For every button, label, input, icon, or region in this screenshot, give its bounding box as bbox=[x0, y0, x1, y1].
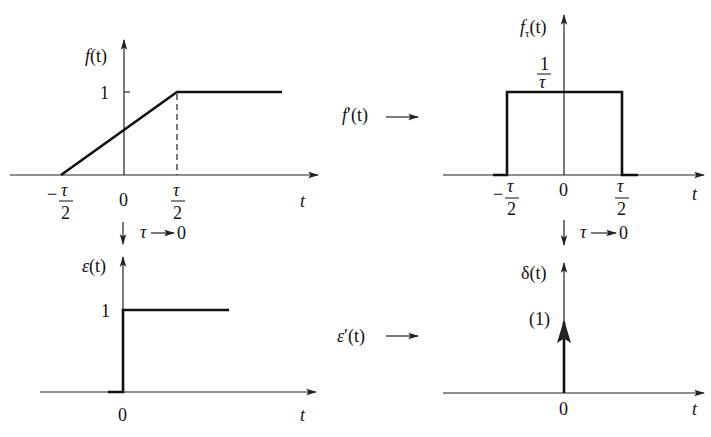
neg-sign: − bbox=[493, 184, 503, 204]
level-label: 1 bbox=[100, 83, 109, 103]
x-axis-label: t bbox=[692, 399, 698, 419]
panel-ramp-function: f(t) 1 t − τ 2 0 τ 2 bbox=[10, 40, 318, 223]
neg-sign: − bbox=[47, 184, 57, 204]
step-signal bbox=[108, 310, 229, 392]
limit-arrow-right: τ 0 bbox=[564, 220, 628, 245]
x-axis-label: t bbox=[300, 191, 306, 211]
neg-tick-num: τ bbox=[507, 176, 514, 196]
x-axis-label: t bbox=[692, 184, 698, 204]
panel-unit-impulse: δ(t) (1) 0 t ε′(t) bbox=[337, 263, 704, 419]
pos-tick-num: τ bbox=[617, 176, 624, 196]
ramp-signal bbox=[61, 92, 282, 175]
y-axis-label: fτ(t) bbox=[520, 17, 546, 39]
y-axis-label: ε(t) bbox=[82, 256, 106, 277]
signal-diagram: f(t) 1 t − τ 2 0 τ 2 τ 0 fτ(t) 1 τ t − τ… bbox=[0, 0, 711, 437]
zero-tick: 0 bbox=[559, 399, 568, 419]
neg-tick-num: τ bbox=[61, 180, 68, 200]
tau-symbol: τ bbox=[140, 222, 147, 242]
derivative-label: ε′(t) bbox=[337, 326, 365, 347]
neg-tick-den: 2 bbox=[61, 203, 70, 223]
impulse-weight: (1) bbox=[529, 309, 550, 330]
tau-symbol: τ bbox=[580, 222, 587, 242]
limit-zero: 0 bbox=[619, 223, 628, 243]
panel-rect-pulse: fτ(t) 1 τ t − τ 2 0 τ 2 f′(t) bbox=[342, 15, 704, 219]
limit-zero: 0 bbox=[177, 223, 186, 243]
derivative-label: f′(t) bbox=[342, 105, 368, 126]
level-num: 1 bbox=[540, 54, 549, 74]
limit-arrow-left: τ 0 bbox=[123, 222, 186, 244]
neg-tick-den: 2 bbox=[507, 199, 516, 219]
zero-tick: 0 bbox=[118, 405, 127, 425]
y-axis-label: f(t) bbox=[85, 46, 107, 67]
pos-tick-num: τ bbox=[173, 180, 180, 200]
zero-tick: 0 bbox=[119, 190, 128, 210]
y-axis-label: δ(t) bbox=[521, 263, 546, 284]
x-axis-label: t bbox=[300, 405, 306, 425]
pos-tick-den: 2 bbox=[617, 199, 626, 219]
panel-unit-step: ε(t) 1 0 t bbox=[40, 256, 316, 425]
level-label: 1 bbox=[101, 301, 110, 321]
zero-tick: 0 bbox=[559, 180, 568, 200]
pos-tick-den: 2 bbox=[173, 203, 182, 223]
rect-pulse-signal bbox=[493, 92, 638, 175]
level-den: τ bbox=[539, 72, 546, 92]
